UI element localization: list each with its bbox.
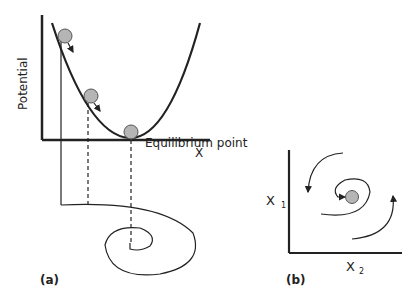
potential-curve — [52, 23, 200, 138]
ball-equilibrium — [124, 125, 138, 139]
ball-2 — [84, 89, 98, 103]
ball-1 — [58, 29, 72, 43]
arrow-icon — [94, 103, 100, 111]
y-axis-label: X — [266, 193, 275, 208]
spiral-trajectory — [61, 204, 196, 275]
panel-a: Potential X Equilibrium point (a) — [16, 15, 248, 287]
arrow-icon — [68, 43, 73, 52]
x-axis-subscript: 2 — [359, 267, 364, 276]
flow-arrow-left — [308, 153, 343, 192]
panel-a-label: (a) — [40, 273, 59, 287]
y-axis-subscript: 1 — [281, 201, 286, 210]
ball-equilibrium-b — [346, 191, 359, 204]
panel-b-label: (b) — [286, 273, 306, 287]
diagram-canvas: Potential X Equilibrium point (a) X 1 X … — [0, 0, 420, 304]
equilibrium-label: Equilibrium point — [145, 136, 248, 150]
potential-diagram: Potential X Equilibrium point (a) X 1 X … — [0, 0, 420, 304]
flow-arrow-right — [352, 196, 393, 239]
panel-b: X 1 X 2 (b) — [266, 150, 402, 287]
y-axis-label: Potential — [16, 57, 30, 110]
x-axis-label: X — [346, 259, 355, 274]
